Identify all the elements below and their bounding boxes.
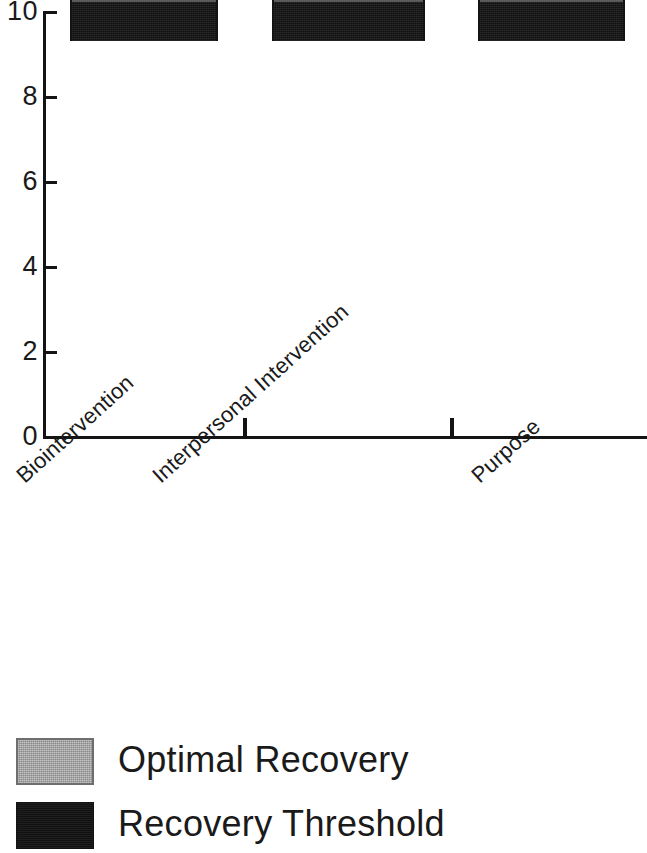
scan-artifact-line bbox=[72, 0, 216, 2]
bar-group-purpose[interactable] bbox=[478, 0, 625, 41]
y-axis-label-6: 6 bbox=[4, 168, 38, 195]
bar-group-interpersonal-intervention[interactable] bbox=[272, 0, 425, 41]
legend-item-optimal-recovery[interactable]: Optimal Recovery bbox=[16, 735, 636, 799]
x-axis-category-label-purpose: Purpose bbox=[467, 414, 545, 488]
plot-area: 10 8 6 4 2 0 bbox=[0, 0, 647, 450]
legend-swatch-recovery-threshold bbox=[16, 802, 94, 849]
x-axis-tick-2 bbox=[450, 418, 454, 437]
scan-artifact-line bbox=[274, 0, 423, 2]
y-axis-label-4: 4 bbox=[4, 253, 38, 280]
y-axis-label-10: 10 bbox=[4, 0, 38, 25]
legend-item-recovery-threshold[interactable]: Recovery Threshold bbox=[16, 799, 636, 853]
legend-label-recovery-threshold: Recovery Threshold bbox=[118, 799, 445, 849]
y-axis-label-8: 8 bbox=[4, 83, 38, 110]
scan-artifact-line bbox=[480, 0, 623, 2]
x-axis-line bbox=[43, 436, 647, 439]
legend-swatch-optimal-recovery bbox=[16, 738, 94, 785]
y-axis-tick-2 bbox=[43, 351, 57, 354]
y-axis-label-2: 2 bbox=[4, 338, 38, 365]
x-axis-tick-1 bbox=[243, 418, 247, 437]
y-axis-tick-4 bbox=[43, 266, 57, 269]
bar-group-biointervention[interactable] bbox=[70, 0, 218, 41]
chart-legend: Optimal Recovery Recovery Threshold bbox=[16, 735, 636, 853]
legend-label-optimal-recovery: Optimal Recovery bbox=[118, 735, 409, 785]
bar-segment-recovery-threshold[interactable] bbox=[272, 0, 425, 41]
y-axis-label-0: 0 bbox=[4, 423, 38, 450]
y-axis-tick-10 bbox=[43, 11, 57, 14]
y-axis-line bbox=[43, 11, 46, 439]
y-axis-tick-6 bbox=[43, 181, 57, 184]
bar-segment-recovery-threshold[interactable] bbox=[70, 0, 218, 41]
x-axis-category-label-interpersonal-intervention: Interpersonal Intervention bbox=[148, 300, 353, 488]
bar-segment-recovery-threshold[interactable] bbox=[478, 0, 625, 41]
y-axis-tick-8 bbox=[43, 96, 57, 99]
